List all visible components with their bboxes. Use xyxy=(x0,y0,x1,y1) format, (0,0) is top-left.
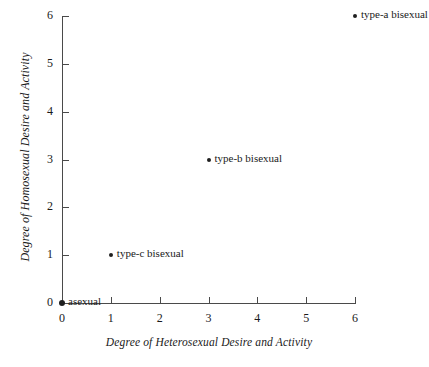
x-axis-line xyxy=(62,303,356,304)
x-tick-label: 6 xyxy=(345,311,365,326)
x-axis-title: Degree of Heterosexual Desire and Activi… xyxy=(62,336,356,348)
x-tick xyxy=(111,297,112,303)
scatter-plot-figure: Degree of Homosexual Desire and Activity… xyxy=(0,0,429,367)
data-point xyxy=(109,253,113,257)
data-point-label: type-c bisexual xyxy=(117,247,184,259)
y-tick-label: 1 xyxy=(33,247,53,262)
x-tick-label: 5 xyxy=(296,311,316,326)
x-tick-label: 2 xyxy=(150,311,170,326)
y-tick xyxy=(63,255,69,256)
y-tick xyxy=(63,64,69,65)
data-point xyxy=(207,158,211,162)
x-tick-label: 4 xyxy=(247,311,267,326)
y-tick-label: 4 xyxy=(33,104,53,119)
y-tick xyxy=(63,160,69,161)
y-tick-label: 6 xyxy=(33,8,53,23)
data-point-label: asexual xyxy=(68,295,101,307)
data-point-label: type-b bisexual xyxy=(215,152,283,164)
x-tick-label: 3 xyxy=(199,311,219,326)
y-tick-label: 2 xyxy=(33,199,53,214)
data-point-label: type-a bisexual xyxy=(361,8,428,20)
y-tick xyxy=(63,207,69,208)
y-tick xyxy=(63,16,69,17)
y-tick-label: 0 xyxy=(33,295,53,310)
x-tick xyxy=(355,297,356,303)
data-point xyxy=(59,300,65,306)
x-tick xyxy=(257,297,258,303)
data-point xyxy=(353,14,357,18)
x-tick xyxy=(306,297,307,303)
x-tick-label: 0 xyxy=(52,311,72,326)
x-tick xyxy=(160,297,161,303)
x-tick-label: 1 xyxy=(101,311,121,326)
y-tick-label: 3 xyxy=(33,152,53,167)
plot-area: 0123456 0123456 asexualtype-c bisexualty… xyxy=(62,16,355,303)
x-tick xyxy=(209,297,210,303)
y-tick-label: 5 xyxy=(33,56,53,71)
y-tick xyxy=(63,112,69,113)
